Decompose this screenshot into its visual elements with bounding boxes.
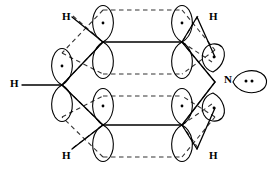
solid-bond-framework xyxy=(22,17,215,149)
atom-label-nitrogen: N xyxy=(224,74,232,85)
atom-label-h-top-right: H xyxy=(209,11,218,22)
dashed-lower-left-inner xyxy=(62,96,103,117)
orbital-diagram-canvas xyxy=(0,0,272,174)
dashed-ring-framework xyxy=(62,10,215,157)
figure-caption xyxy=(0,167,272,174)
orbital-diagram-figure: H H H H H N xyxy=(0,0,272,174)
solid-bond-h-top-right xyxy=(182,17,197,42)
atom-label-h-bottom-right: H xyxy=(209,150,218,161)
atom-label-h-bottom-left: H xyxy=(62,150,71,161)
atom-label-h-left: H xyxy=(10,78,19,89)
lone-pair-dot-2 xyxy=(251,80,254,83)
p-orbital-n1-lower-lobe xyxy=(202,93,224,121)
atom-label-h-top-left: H xyxy=(62,11,71,22)
solid-bond-h-to-n-lower xyxy=(197,108,215,149)
solid-bond-left-upper xyxy=(62,42,103,85)
solid-bond-h-to-n-upper xyxy=(197,17,215,57)
nitrogen-lone-pair-lobe xyxy=(233,71,267,93)
lone-pair-dot-1 xyxy=(245,80,248,83)
solid-bond-h-bottom-right xyxy=(182,125,197,149)
